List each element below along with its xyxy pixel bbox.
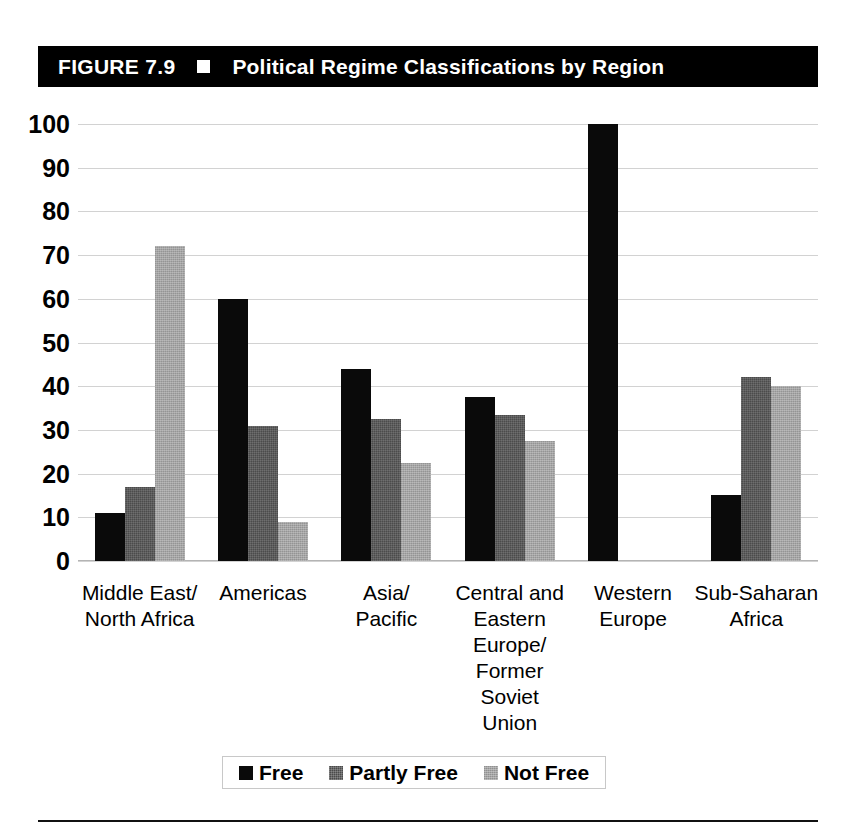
y-axis-tick-label: 80 xyxy=(18,199,70,224)
black-square-swatch xyxy=(239,766,253,780)
y-axis-tick-label: 40 xyxy=(18,374,70,399)
bar-free xyxy=(218,299,248,561)
bar-group xyxy=(571,124,694,561)
legend-label: Not Free xyxy=(504,761,589,785)
figure-container: FIGURE 7.9 Political Regime Classificati… xyxy=(0,0,856,837)
bar-free xyxy=(465,397,495,561)
legend-item: Not Free xyxy=(484,761,589,785)
bar-partly-free xyxy=(125,487,155,561)
bar-group xyxy=(325,124,448,561)
y-axis-tick-label: 100 xyxy=(18,112,70,137)
gridline xyxy=(78,561,818,562)
figure-title-bar: FIGURE 7.9 Political Regime Classificati… xyxy=(38,46,818,87)
bar-partly-free xyxy=(371,419,401,561)
bar-group xyxy=(201,124,324,561)
bar-not-free xyxy=(155,246,185,561)
y-axis-tick-label: 90 xyxy=(18,156,70,181)
bar-not-free xyxy=(278,522,308,561)
y-axis-tick-label: 30 xyxy=(18,418,70,443)
legend-item: Partly Free xyxy=(329,761,458,785)
bar-free xyxy=(711,495,741,561)
bar-free xyxy=(95,513,125,561)
bar-group xyxy=(448,124,571,561)
bar-not-free xyxy=(401,463,431,561)
y-axis-tick-label: 10 xyxy=(18,505,70,530)
bar-group xyxy=(78,124,201,561)
bar-free xyxy=(588,124,618,561)
figure-title: Political Regime Classifications by Regi… xyxy=(232,55,664,79)
legend-item: Free xyxy=(239,761,303,785)
figure-bottom-rule xyxy=(38,820,818,822)
bar-partly-free xyxy=(741,377,771,561)
bar-partly-free xyxy=(495,415,525,561)
y-axis-tick-label: 20 xyxy=(18,462,70,487)
white-square-icon xyxy=(197,60,210,73)
chart-legend: FreePartly FreeNot Free xyxy=(222,756,606,789)
y-axis-tick-label: 50 xyxy=(18,331,70,356)
bar-group xyxy=(695,124,818,561)
figure-number-label: FIGURE 7.9 xyxy=(58,55,175,79)
plot-area xyxy=(78,124,818,561)
y-axis-tick-label: 0 xyxy=(18,549,70,574)
y-axis-tick-label: 70 xyxy=(18,243,70,268)
bar-not-free xyxy=(771,386,801,561)
y-axis-tick-label: 60 xyxy=(18,287,70,312)
legend-label: Partly Free xyxy=(349,761,458,785)
legend-label: Free xyxy=(259,761,303,785)
light-gray-square-swatch xyxy=(484,766,498,780)
category-label: Sub-Saharan Africa xyxy=(683,580,830,632)
bar-partly-free xyxy=(248,426,278,561)
bar-free xyxy=(341,369,371,561)
dark-gray-square-swatch xyxy=(329,766,343,780)
bar-not-free xyxy=(525,441,555,561)
